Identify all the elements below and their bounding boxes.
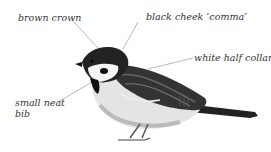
label-brown-crown: brown crown [18, 12, 81, 23]
label-white-collar: white half collar [194, 52, 271, 63]
label-bib-line1: small neat [15, 97, 65, 108]
label-bib-line2: bib [15, 108, 30, 119]
leader-line-crown [72, 20, 98, 48]
leader-line-collar [148, 58, 193, 69]
label-black-cheek: black cheek ‘comma’ [146, 11, 247, 22]
leader-line-cheek [123, 22, 138, 49]
